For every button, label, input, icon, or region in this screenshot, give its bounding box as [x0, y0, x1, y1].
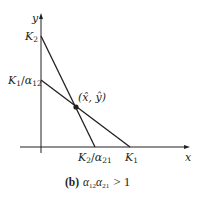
equilibrium-label: (x̂, ŷ) — [78, 91, 106, 104]
figure-caption: (b)α12α21> 1 — [65, 174, 130, 190]
x-intercept-K1-label: K1 — [124, 151, 138, 165]
y-axis-label: y — [31, 12, 39, 25]
y-axis-arrow-icon — [39, 13, 43, 19]
y-intercept-K2-label: K2 — [24, 30, 38, 44]
phase-plane-diagram: (x̂, ŷ) y x K2 K1/α12 K2/α21 K1 (b)α12α2… — [0, 0, 204, 198]
y-intercept-K1-alpha12-label: K1/α12 — [7, 74, 42, 88]
x-axis-label: x — [185, 151, 192, 164]
x-intercept-K2-alpha21-label: K2/α21 — [77, 151, 112, 165]
x-axis-arrow-icon — [184, 145, 190, 149]
equilibrium-point — [73, 104, 78, 109]
